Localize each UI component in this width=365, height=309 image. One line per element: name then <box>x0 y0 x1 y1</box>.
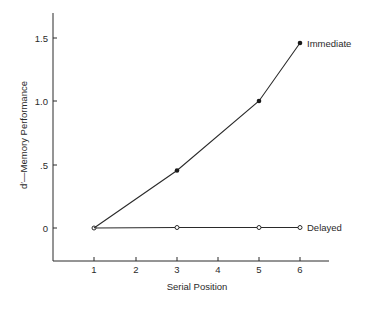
legend-delayed: Delayed <box>307 222 342 233</box>
chart-canvas: 1.5 1.0 .5 0 1 2 3 4 5 6 Serial Position… <box>0 0 365 309</box>
x-axis-title: Serial Position <box>167 281 228 292</box>
x-tick-label-6: 6 <box>297 264 302 275</box>
y-tick-label-10: 1.0 <box>35 96 48 107</box>
delayed-point-3 <box>175 226 179 230</box>
immediate-line <box>94 43 300 228</box>
axes <box>53 13 329 261</box>
x-tick-label-4: 4 <box>215 264 220 275</box>
immediate-point-6 <box>298 41 303 46</box>
delayed-point-6 <box>298 226 302 230</box>
x-tick-label-1: 1 <box>91 264 96 275</box>
y-tick-label-05: .5 <box>40 160 48 171</box>
delayed-line <box>94 228 300 229</box>
x-tick-label-5: 5 <box>256 264 261 275</box>
y-axis-title: d′—Memory Performance <box>18 81 29 189</box>
series-delayed: Delayed <box>92 222 342 233</box>
series-immediate: Immediate <box>94 38 351 229</box>
immediate-point-3 <box>175 168 180 173</box>
x-tick-label-2: 2 <box>133 264 138 275</box>
y-tick-label-15: 1.5 <box>35 33 48 44</box>
immediate-point-5 <box>257 99 262 104</box>
x-tick-label-3: 3 <box>174 264 179 275</box>
y-tick-label-0: 0 <box>43 223 48 234</box>
legend-immediate: Immediate <box>307 38 351 49</box>
delayed-point-5 <box>257 226 261 230</box>
